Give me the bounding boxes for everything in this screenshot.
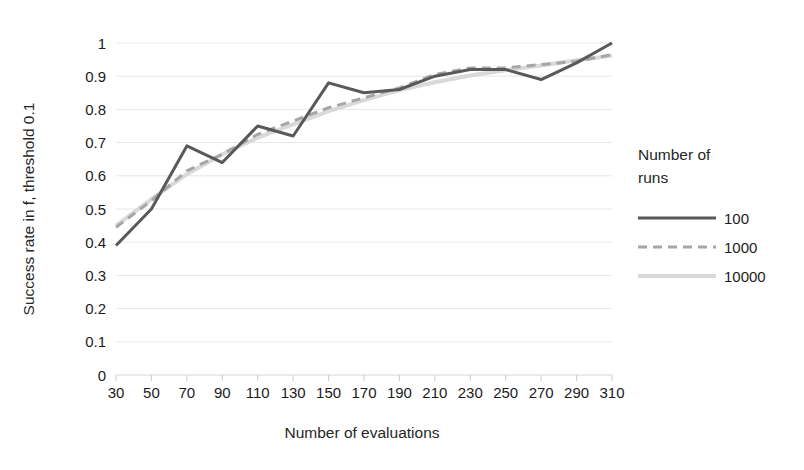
x-tick-label: 110 [246, 384, 270, 401]
x-tick-label: 50 [143, 384, 160, 401]
y-axis-title: Success rate in f, threshold 0.1 [20, 103, 37, 316]
x-tick-label: 150 [316, 384, 341, 401]
y-tick-label: 1 [98, 35, 106, 52]
x-tick-label: 270 [529, 384, 554, 401]
x-tick-label: 250 [493, 384, 518, 401]
x-tick-label: 170 [351, 384, 376, 401]
x-tick-label: 30 [108, 384, 125, 401]
x-tick-label: 290 [564, 384, 589, 401]
y-tick-label: 0.2 [85, 300, 106, 317]
y-tick-label: 0.4 [85, 234, 106, 251]
y-tick-label: 0 [98, 367, 106, 384]
legend-title-line1: Number of [638, 146, 711, 163]
x-tick-label: 310 [599, 384, 624, 401]
y-tick-label: 0.6 [85, 167, 106, 184]
x-tick-label: 210 [422, 384, 447, 401]
x-axis-tick-labels: 3050709011013015017019021023025027029031… [108, 384, 625, 401]
x-tick-label: 70 [179, 384, 196, 401]
legend-label-10000: 10000 [724, 268, 766, 285]
legend-label-1000: 1000 [724, 239, 757, 256]
y-tick-label: 0.8 [85, 101, 106, 118]
y-tick-label: 0.5 [85, 201, 106, 218]
y-tick-label: 0.9 [85, 68, 106, 85]
legend-label-100: 100 [724, 210, 749, 227]
chart-figure: 00.10.20.30.40.50.60.70.80.91 3050709011… [0, 0, 804, 470]
x-axis-title: Number of evaluations [284, 424, 439, 441]
x-tick-label: 130 [281, 384, 306, 401]
x-tick-label: 90 [214, 384, 231, 401]
y-tick-label: 0.3 [85, 267, 106, 284]
x-tick-label: 190 [387, 384, 412, 401]
y-tick-label: 0.7 [85, 134, 106, 151]
legend-title-line2: runs [638, 169, 668, 186]
x-tick-label: 230 [458, 384, 483, 401]
y-tick-label: 0.1 [85, 333, 106, 350]
